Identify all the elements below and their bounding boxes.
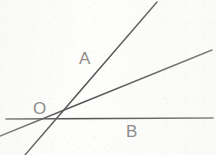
vertex-label-o: O	[33, 100, 46, 117]
line-b	[6, 118, 213, 119]
line-label-b: B	[126, 123, 137, 140]
geometry-figure: O A B	[0, 0, 216, 155]
line-label-a: A	[79, 50, 90, 67]
line-middle	[0, 50, 212, 136]
figure-canvas	[0, 0, 216, 155]
